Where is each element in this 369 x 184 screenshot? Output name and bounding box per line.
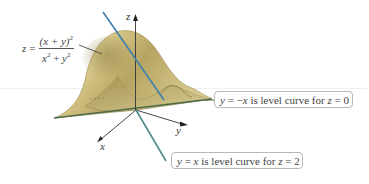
- surface-formula: z = (x + y)2 x2 + y2: [22, 33, 74, 63]
- formula-lhs: z: [22, 42, 26, 54]
- x-axis: x: [97, 110, 136, 152]
- callout-level-curve-z0: y = −x is level curve for z = 0: [214, 91, 353, 108]
- formula-equals: =: [29, 42, 35, 54]
- formula-denominator: x2 + y2: [42, 49, 71, 64]
- formula-fraction: (x + y)2 x2 + y2: [39, 33, 75, 63]
- x-axis-label: x: [99, 140, 105, 152]
- y-axis-label: y: [175, 124, 181, 136]
- surface: [54, 31, 212, 118]
- callout-level-curve-z2: y = x is level curve for z = 2: [171, 152, 303, 169]
- z-axis-label: z: [125, 10, 131, 22]
- formula-numerator: (x + y)2: [39, 33, 75, 49]
